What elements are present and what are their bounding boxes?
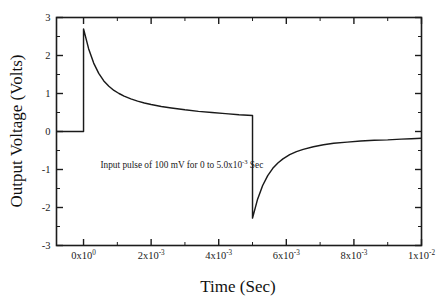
- y-tick-label-5: -2: [42, 202, 51, 213]
- x-tick-label-3: 6x10-3: [273, 249, 300, 261]
- y-axis-major-ticks: [57, 18, 422, 246]
- plot-frame-border: [57, 18, 422, 246]
- y-axis-tick-labels: 3210-1-2-3: [42, 12, 51, 251]
- y-tick-label-3: 0: [45, 126, 50, 137]
- y-tick-label-0: 3: [45, 12, 50, 23]
- x-axis-tick-labels: 0x1002x10-34x10-36x10-38x10-31x10-2: [71, 249, 435, 261]
- plot-annotation: Input pulse of 100 mV for 0 to 5.0x10-3 …: [100, 158, 263, 169]
- x-tick-label-1: 2x10-3: [138, 249, 165, 261]
- y-tick-label-2: 1: [45, 88, 50, 99]
- y-tick-label-1: 2: [45, 50, 50, 61]
- x-tick-label-5: 1x10-2: [408, 249, 435, 261]
- x-axis-title: Time (Sec): [200, 277, 275, 296]
- annotation-input-pulse: Input pulse of 100 mV for 0 to 5.0x10-3 …: [100, 158, 263, 169]
- x-tick-label-0: 0x100: [71, 249, 96, 261]
- y-tick-label-4: -1: [42, 164, 51, 175]
- y-axis-minor-ticks: [57, 37, 422, 227]
- y-tick-label-6: -3: [42, 240, 51, 251]
- x-tick-label-2: 4x10-3: [205, 249, 232, 261]
- chart-canvas: 0x1002x10-34x10-36x10-38x10-31x10-2 3210…: [0, 0, 437, 304]
- x-tick-label-4: 8x10-3: [340, 249, 367, 261]
- y-axis-title: Output Voltage (Volts): [7, 54, 26, 207]
- data-series-output-voltage: [57, 29, 422, 218]
- plot-svg: 0x1002x10-34x10-36x10-38x10-31x10-2 3210…: [0, 0, 437, 304]
- chart-figure-root: 0x1002x10-34x10-36x10-38x10-31x10-2 3210…: [0, 0, 437, 304]
